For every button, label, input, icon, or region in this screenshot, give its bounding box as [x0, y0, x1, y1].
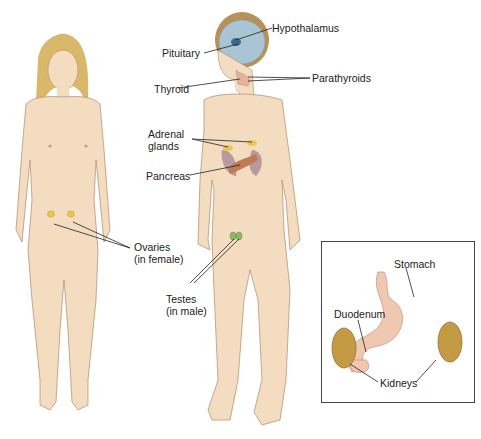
label-ovaries-line2: (in female): [134, 253, 184, 265]
endocrine-diagram: Hypothalamus Pituitary Thyroid Parathyro…: [0, 0, 481, 439]
label-thyroid: Thyroid: [154, 83, 189, 95]
label-pituitary: Pituitary: [162, 47, 200, 59]
label-hypothalamus: Hypothalamus: [272, 22, 339, 34]
label-pancreas: Pancreas: [146, 170, 190, 182]
label-kidneys: Kidneys: [380, 377, 417, 389]
label-adrenal-line2: glands: [148, 140, 179, 152]
label-ovaries-line1: Ovaries: [134, 241, 170, 253]
label-duodenum: Duodenum: [334, 308, 385, 320]
label-testes-line1: Testes: [166, 293, 196, 305]
female-figure: [16, 34, 110, 410]
digestive-inset: Stomach Duodenum Kidneys: [321, 241, 475, 403]
male-figure: [198, 12, 300, 425]
label-testes-line2: (in male): [166, 305, 207, 317]
label-adrenal-line1: Adrenal: [148, 128, 184, 140]
label-parathyroids: Parathyroids: [312, 72, 371, 84]
label-stomach: Stomach: [394, 258, 435, 270]
